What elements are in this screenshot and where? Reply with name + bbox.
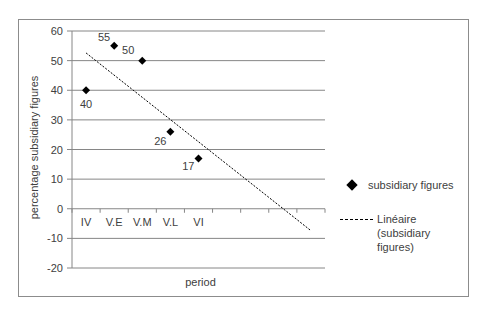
data-point-marker xyxy=(82,86,90,94)
x-tick-label: VI xyxy=(193,216,203,228)
legend-label: Linéaire (subsidiary figures) xyxy=(377,212,470,254)
y-tick-label: -20 xyxy=(47,262,63,274)
plot-area: 6050403020100-10-20IVV.EV.MV.LVI40555026… xyxy=(0,0,487,317)
trendline xyxy=(86,53,311,231)
y-tick-label: 0 xyxy=(57,203,63,215)
y-tick-label: 10 xyxy=(51,173,63,185)
data-label: 17 xyxy=(182,160,194,172)
dotted-line-icon xyxy=(340,219,373,220)
y-tick-label: 60 xyxy=(51,25,63,37)
data-label: 40 xyxy=(80,98,92,110)
y-tick-label: -10 xyxy=(47,232,63,244)
x-tick-label: IV xyxy=(81,216,92,228)
legend-item-subsidiary-figures: subsidiary figures xyxy=(348,178,454,192)
data-point-marker xyxy=(110,42,118,50)
data-label: 50 xyxy=(122,44,134,56)
x-tick-label: V.E xyxy=(106,216,123,228)
y-axis-title: percentage subsidiary figures xyxy=(28,75,40,219)
legend-label-line1: Linéaire (subsidiary xyxy=(377,213,430,239)
x-tick-label: V.M xyxy=(133,216,152,228)
data-label: 55 xyxy=(98,31,110,43)
y-tick-label: 20 xyxy=(51,144,63,156)
data-label: 26 xyxy=(154,135,166,147)
y-tick-label: 50 xyxy=(51,55,63,67)
x-axis-title: period xyxy=(185,276,216,288)
y-tick-label: 30 xyxy=(51,114,63,126)
diamond-marker-icon xyxy=(346,179,357,190)
data-point-marker xyxy=(138,57,146,65)
data-point-marker xyxy=(166,128,174,136)
y-tick-label: 40 xyxy=(51,84,63,96)
legend-label-line2: figures) xyxy=(377,241,414,253)
data-point-marker xyxy=(195,154,203,162)
legend-label: subsidiary figures xyxy=(368,178,454,192)
x-tick-label: V.L xyxy=(163,216,179,228)
legend-item-trendline: Linéaire (subsidiary figures) xyxy=(340,212,470,254)
